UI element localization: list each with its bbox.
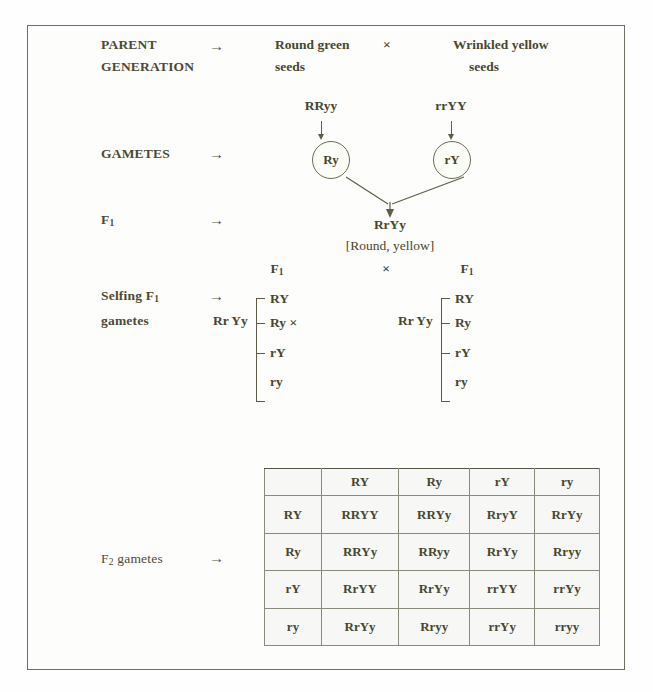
punnett-cell-2-2: rrYY: [470, 571, 535, 608]
punnett-cell-1-1: RRyy: [399, 533, 470, 570]
punnett-cell-3-2: rrYy: [470, 608, 535, 645]
selfing-right-gamete-3: rY: [455, 345, 471, 361]
punnett-square-table: RY Ry rY ry RY RRYY RRYy RryY RrYy Ry RR…: [264, 468, 600, 646]
punnett-cell-3-3: rryy: [535, 608, 600, 645]
f1-label: F1: [101, 212, 114, 228]
selfing-header-cross: ×: [382, 261, 390, 277]
punnett-row: ry RrYy Rryy rrYy rryy: [265, 608, 600, 645]
punnett-row-header-3: ry: [265, 608, 322, 645]
selfing-right-gamete-1: RY: [455, 291, 474, 307]
selfing-label-line1-subscript: 1: [154, 294, 159, 304]
selfing-right-gamete-2: Ry: [455, 315, 471, 331]
f1-genotype: RrYy: [374, 217, 406, 233]
selfing-header-left: F1: [271, 261, 284, 277]
punnett-header-row: RY Ry rY ry: [265, 469, 600, 496]
punnett-col-header-3: ry: [535, 469, 600, 496]
selfing-left-gamete-1: RY: [270, 291, 289, 307]
f2-label-text: F: [101, 551, 109, 566]
f2-arrow-icon: →: [209, 551, 224, 566]
punnett-row: rY RrYY RrYy rrYY rrYy: [265, 571, 600, 608]
punnett-cell-1-2: RrYy: [470, 533, 535, 570]
f1-arrow-icon: →: [209, 213, 224, 228]
selfing-left-gamete-2: Ry ×: [270, 315, 297, 331]
f2-gametes-label: F2 gametes: [101, 551, 163, 567]
punnett-cell-0-1: RRYy: [399, 496, 470, 533]
punnett-cell-2-1: RrYy: [399, 571, 470, 608]
diagram-page: PARENT GENERATION → Round green seeds × …: [0, 0, 653, 692]
punnett-col-header-1: Ry: [399, 469, 470, 496]
selfing-right-gamete-4: ry: [455, 374, 468, 390]
selfing-header-left-text: F: [271, 261, 279, 276]
selfing-left-gamete-4: ry: [270, 374, 283, 390]
punnett-row-header-2: rY: [265, 571, 322, 608]
punnett-cell-3-0: RrYy: [322, 608, 399, 645]
f1-label-subscript: 1: [109, 218, 114, 228]
selfing-left-tick-3: [256, 353, 265, 354]
punnett-cell-0-0: RRYY: [322, 496, 399, 533]
selfing-right-tick-2: [441, 323, 450, 324]
selfing-left-parent-genotype: Rr Yy: [213, 313, 248, 329]
selfing-left-bracket: [256, 298, 265, 402]
punnett-cell-3-1: Rryy: [399, 608, 470, 645]
selfing-header-left-subscript: 1: [279, 267, 284, 277]
selfing-left-gamete-3: rY: [270, 345, 286, 361]
punnett-cell-2-3: rrYy: [535, 571, 600, 608]
punnett-corner-cell: [265, 469, 322, 496]
selfing-label-line1: Selfing F1: [101, 288, 159, 304]
punnett-col-header-2: rY: [470, 469, 535, 496]
punnett-row: RY RRYY RRYy RryY RrYy: [265, 496, 600, 533]
selfing-right-bracket: [441, 298, 450, 402]
selfing-header-right: F1: [461, 261, 474, 277]
selfing-left-tick-2: [256, 323, 265, 324]
selfing-label-line1-text: Selfing F: [101, 288, 154, 303]
selfing-header-right-subscript: 1: [469, 267, 474, 277]
punnett-cell-0-2: RryY: [470, 496, 535, 533]
f2-label-rest: gametes: [114, 551, 163, 566]
selfing-label-line2: gametes: [101, 313, 149, 329]
punnett-row-header-1: Ry: [265, 533, 322, 570]
selfing-arrow-icon: →: [209, 289, 224, 304]
punnett-cell-2-0: RrYY: [322, 571, 399, 608]
f1-phenotype: [Round, yellow]: [346, 238, 435, 254]
punnett-body: RY Ry rY ry RY RRYY RRYy RryY RrYy Ry RR…: [265, 469, 600, 646]
selfing-right-parent-genotype: Rr Yy: [398, 313, 433, 329]
punnett-row: Ry RRYy RRyy RrYy Rryy: [265, 533, 600, 570]
selfing-right-tick-3: [441, 353, 450, 354]
punnett-cell-0-3: RrYy: [535, 496, 600, 533]
punnett-cell-1-3: Rryy: [535, 533, 600, 570]
punnett-cell-1-0: RRYy: [322, 533, 399, 570]
punnett-row-header-0: RY: [265, 496, 322, 533]
punnett-col-header-0: RY: [322, 469, 399, 496]
selfing-header-right-text: F: [461, 261, 469, 276]
